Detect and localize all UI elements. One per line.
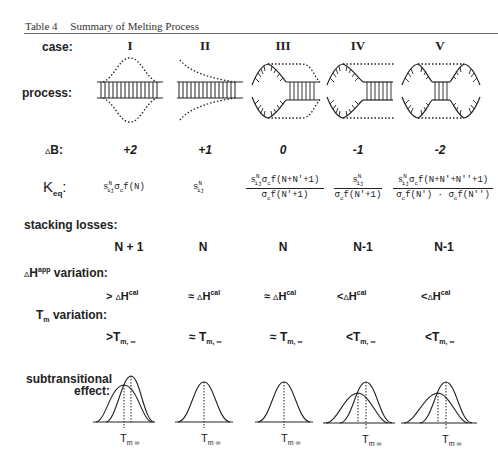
row-label-case: case: bbox=[42, 40, 73, 54]
tm-variation-case-1: >Tm, ∞ bbox=[106, 330, 135, 345]
keq-case-4-denominator: σcf(N'+1) bbox=[334, 189, 382, 202]
keq-case-3-numerator: sNijσcf(N+N'+1) bbox=[246, 173, 324, 189]
stacking-losses-case-4: N-1 bbox=[333, 240, 393, 254]
dh-variation-case-1: > ΔHcal bbox=[106, 289, 139, 302]
stacking-losses-case-3: N bbox=[253, 240, 313, 254]
subtransitional-curve-case-1 bbox=[92, 372, 156, 432]
keq-case-4-numerator: sNij bbox=[334, 173, 382, 189]
process-diagram-case-5 bbox=[400, 55, 482, 135]
delta-b-case-1: +2 bbox=[100, 143, 160, 157]
subtransitional-curve-case-3 bbox=[254, 372, 314, 432]
header-rule bbox=[24, 33, 498, 34]
row-label-dh-variation: ΔHapp variation: bbox=[24, 266, 108, 280]
subtransitional-curve-case-5 bbox=[400, 372, 478, 432]
keq-case-1: sNijσcf(N) bbox=[103, 180, 145, 194]
row-label-delta-b: ΔB: bbox=[45, 143, 63, 157]
keq-case-4: sNij σcf(N'+1) bbox=[334, 173, 382, 202]
dh-variation-case-3: ≈ ΔHcal bbox=[264, 289, 296, 302]
case-numeral-2: II bbox=[175, 38, 235, 54]
subtransitional-curve-case-4 bbox=[322, 372, 396, 432]
process-diagram-case-3 bbox=[250, 55, 322, 135]
dh-variation-case-2: ≈ ΔHcal bbox=[188, 289, 220, 302]
table-number: Table 4 bbox=[25, 20, 58, 32]
tm-label-case-2: Tm ∞ bbox=[201, 432, 221, 446]
case-numeral-4: IV bbox=[328, 38, 388, 54]
delta-b-case-2: +1 bbox=[175, 143, 235, 157]
case-numeral-5: V bbox=[410, 38, 470, 54]
keq-case-5-numerator: sNijσcf(N+N'+N''+1) bbox=[393, 173, 493, 189]
stacking-losses-case-5: N-1 bbox=[414, 240, 474, 254]
keq-case-5: sNijσcf(N+N'+N''+1) σcf(N') · σcf(N'') bbox=[393, 173, 493, 202]
tm-label-case-1: Tm ∞ bbox=[120, 432, 140, 446]
delta-b-case-5: -2 bbox=[410, 143, 470, 157]
table-title: Summary of Melting Process bbox=[70, 20, 199, 32]
subtransitional-curve-case-2 bbox=[174, 372, 234, 432]
tm-variation-case-2: ≈ Tm, ∞ bbox=[189, 330, 221, 345]
dh-variation-case-5: <ΔHcal bbox=[421, 289, 450, 302]
process-diagram-case-2 bbox=[175, 55, 245, 135]
process-diagram-case-1 bbox=[95, 55, 165, 135]
row-label-keq: Keq: bbox=[43, 178, 67, 198]
tm-label-case-3: Tm ∞ bbox=[281, 432, 301, 446]
row-label-tm-variation: Tm variation: bbox=[36, 308, 107, 323]
tm-variation-case-4: <Tm, ∞ bbox=[346, 330, 375, 345]
case-numeral-1: I bbox=[100, 38, 160, 54]
stacking-losses-case-2: N bbox=[173, 240, 233, 254]
row-label-stacking-losses: stacking losses: bbox=[24, 218, 117, 232]
tm-label-case-4: Tm ∞ bbox=[362, 433, 382, 447]
stacking-losses-case-1: N + 1 bbox=[99, 240, 159, 254]
delta-b-case-4: -1 bbox=[328, 143, 388, 157]
table-caption: Table 4 Summary of Melting Process bbox=[25, 20, 199, 32]
tm-variation-case-3: ≈ Tm, ∞ bbox=[270, 330, 302, 345]
tm-label-case-5: Tm ∞ bbox=[442, 433, 462, 447]
dh-variation-case-4: <ΔHcal bbox=[337, 289, 366, 302]
tm-variation-case-5: <Tm, ∞ bbox=[425, 330, 454, 345]
delta-b-case-3: 0 bbox=[253, 143, 313, 157]
process-diagram-case-4 bbox=[325, 55, 397, 135]
row-label-process: process: bbox=[22, 86, 72, 100]
keq-case-3: sNijσcf(N+N'+1) σcf(N'+1) bbox=[246, 173, 324, 202]
keq-case-2: sNij bbox=[193, 180, 204, 194]
case-numeral-3: III bbox=[253, 38, 313, 54]
keq-case-3-denominator: σcf(N'+1) bbox=[246, 189, 324, 202]
keq-case-5-denominator: σcf(N') · σcf(N'') bbox=[393, 189, 493, 202]
